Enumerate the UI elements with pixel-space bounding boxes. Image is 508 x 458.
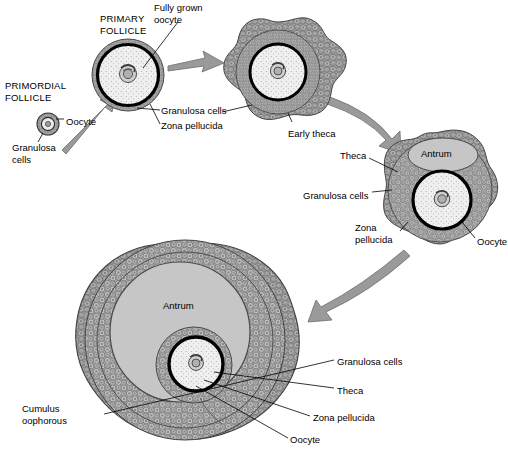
label-cumulus-oophorous: Cumulus oophorous (22, 403, 67, 426)
label-zona-pellucida-antral: Zona pellucida (355, 222, 393, 245)
label-granulosa-cells-antral: Granulosa cells (303, 190, 368, 202)
secondary-follicle (224, 18, 347, 120)
arrow-antral-to-mature (308, 250, 410, 322)
label-zona-pellucida-primary: Zona pellucida (161, 120, 223, 132)
label-zona-pellucida-mature: Zona pellucida (313, 412, 375, 424)
follicle-development-diagram: PRIMORDIAL FOLLICLE PRIMARY FOLLICLE Ful… (0, 0, 508, 458)
label-theca-antral: Theca (340, 150, 366, 162)
arrow-primary-to-secondary (168, 51, 224, 72)
diagram-canvas (0, 0, 508, 458)
label-early-theca: Early theca (288, 128, 336, 140)
label-primordial-follicle-title: PRIMORDIAL FOLLICLE (5, 80, 66, 103)
label-antrum-mature: Antrum (163, 300, 194, 312)
label-oocyte-primordial: Oocyte (66, 116, 96, 128)
label-granulosa-cells-primordial: Granulosa cells (12, 142, 56, 165)
label-antrum-antral: Antrum (421, 148, 452, 160)
label-granulosa-cells-mature: Granulosa cells (337, 356, 402, 368)
primary-follicle (92, 39, 164, 111)
mature-follicle (76, 240, 300, 440)
label-oocyte-antral: Oocyte (477, 236, 507, 248)
label-granulosa-cells-primary: Granulosa cells (161, 105, 226, 117)
primordial-follicle (37, 113, 59, 135)
label-oocyte-mature: Oocyte (290, 434, 320, 446)
arrow-secondary-to-antral (327, 97, 401, 154)
label-fully-grown-oocyte: Fully grown oocyte (154, 2, 203, 25)
label-primary-follicle-title: PRIMARY FOLLICLE (100, 13, 146, 36)
label-theca-mature: Theca (337, 385, 363, 397)
